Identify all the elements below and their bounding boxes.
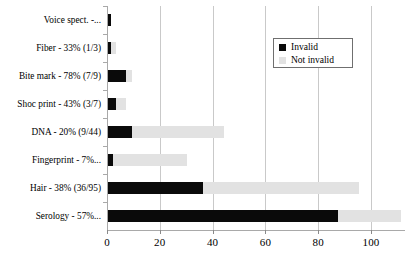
x-axis-line	[107, 230, 405, 231]
bar-row	[108, 14, 111, 26]
legend-label-not-invalid: Not invalid	[291, 55, 334, 66]
y-tick-mark	[103, 118, 107, 119]
gridline	[265, 6, 266, 230]
bar-segment-not-invalid	[203, 182, 359, 194]
bar-segment-not-invalid	[113, 154, 187, 166]
bar-row	[108, 42, 116, 54]
x-tick-mark	[371, 230, 372, 234]
bar-segment-invalid	[108, 70, 126, 82]
x-tick-label: 100	[351, 236, 391, 248]
bar-row	[108, 98, 126, 110]
bar-segment-not-invalid	[132, 126, 224, 138]
category-label: Fingerprint - 7%...	[32, 155, 101, 165]
legend-entry-invalid: Invalid	[279, 41, 349, 54]
bar-segment-invalid	[108, 14, 111, 26]
x-tick-mark	[318, 230, 319, 234]
bar-segment-invalid	[108, 98, 116, 110]
x-tick-label: 0	[87, 236, 127, 248]
bar-row	[108, 182, 359, 194]
legend-swatch-invalid-icon	[279, 44, 286, 51]
bar-row	[108, 126, 224, 138]
y-tick-mark	[103, 6, 107, 7]
x-tick-label: 40	[193, 236, 233, 248]
category-label: Shoc print - 43% (3/7)	[17, 99, 101, 109]
x-tick-mark	[213, 230, 214, 234]
bar-segment-not-invalid	[126, 70, 131, 82]
y-tick-mark	[103, 174, 107, 175]
gridline	[213, 6, 214, 230]
bar-row	[108, 210, 401, 222]
category-label: Voice spect. -...	[44, 15, 101, 25]
bar-segment-not-invalid	[111, 42, 116, 54]
legend-entry-not-invalid: Not invalid	[279, 54, 349, 67]
x-tick-label: 80	[298, 236, 338, 248]
legend-label-invalid: Invalid	[291, 42, 318, 53]
bar-segment-invalid	[108, 182, 203, 194]
bar-row	[108, 154, 187, 166]
y-tick-mark	[103, 62, 107, 63]
category-label: Serology - 57%...	[36, 211, 101, 221]
bar-segment-invalid	[108, 126, 132, 138]
y-tick-mark	[103, 146, 107, 147]
bar-segment-not-invalid	[338, 210, 401, 222]
y-axis-line	[107, 6, 108, 230]
bar-segment-invalid	[108, 210, 338, 222]
x-tick-label: 60	[245, 236, 285, 248]
bar-chart: 020406080100 Voice spect. -...Fiber - 33…	[0, 0, 415, 266]
category-label: Hair - 38% (36/95)	[30, 183, 101, 193]
bar-segment-not-invalid	[116, 98, 127, 110]
y-tick-mark	[103, 90, 107, 91]
gridline	[160, 6, 161, 230]
legend-swatch-not-invalid-icon	[279, 57, 286, 64]
category-label: Bite mark - 78% (7/9)	[19, 71, 101, 81]
chart-legend: Invalid Not invalid	[273, 38, 353, 68]
y-tick-mark	[103, 34, 107, 35]
category-label: Fiber - 33% (1/3)	[36, 43, 101, 53]
x-tick-mark	[160, 230, 161, 234]
x-tick-label: 20	[140, 236, 180, 248]
gridline	[371, 6, 372, 230]
bar-row	[108, 70, 132, 82]
category-label: DNA - 20% (9/44)	[32, 127, 101, 137]
y-tick-mark	[103, 202, 107, 203]
x-tick-mark	[265, 230, 266, 234]
x-tick-mark	[107, 230, 108, 234]
